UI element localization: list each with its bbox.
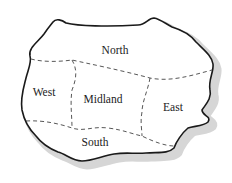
region-label-west: West <box>33 86 56 98</box>
region-label-north: North <box>102 44 129 56</box>
region-label-east: East <box>163 101 183 113</box>
region-label-midland: Midland <box>84 93 123 105</box>
region-label-south: South <box>82 136 109 148</box>
region-map: North West Midland East South <box>0 0 232 183</box>
